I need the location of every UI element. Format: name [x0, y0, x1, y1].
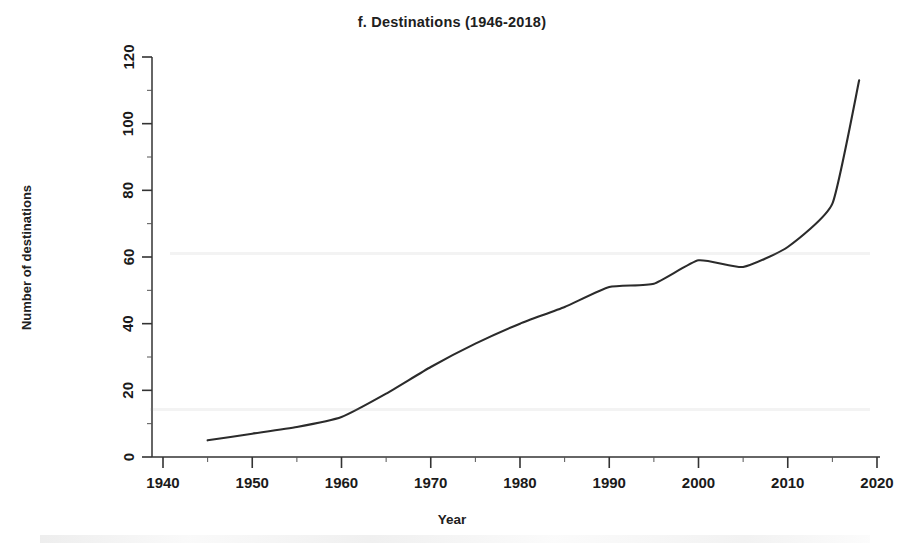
x-tick-label: 1970 [414, 474, 447, 491]
y-tick-label: 20 [120, 382, 137, 399]
y-axis-ticks [142, 57, 152, 457]
y-tick-label: 40 [120, 315, 137, 332]
x-tick-label: 2020 [860, 474, 893, 491]
y-axis-tick-labels: 020406080100120 [120, 44, 137, 461]
y-tick-label: 80 [120, 182, 137, 199]
line-chart-plot: 020406080100120 194019501960197019801990… [0, 0, 904, 543]
scan-artifact-band [150, 408, 870, 411]
y-tick-label: 100 [120, 111, 137, 136]
scan-artifact-band [170, 252, 870, 255]
scan-artifact-footer [40, 535, 870, 543]
y-tick-label: 0 [120, 453, 137, 461]
x-tick-label: 1960 [325, 474, 358, 491]
x-tick-label: 1950 [236, 474, 269, 491]
y-tick-label: 120 [120, 44, 137, 69]
x-axis-ticks [163, 457, 877, 468]
chart-figure: f. Destinations (1946-2018) Number of de… [0, 0, 904, 543]
y-tick-label: 60 [120, 249, 137, 266]
x-tick-label: 2000 [682, 474, 715, 491]
x-axis-tick-labels: 194019501960197019801990200020102020 [146, 474, 893, 491]
x-tick-label: 1980 [503, 474, 536, 491]
x-tick-label: 1940 [146, 474, 179, 491]
x-tick-label: 1990 [593, 474, 626, 491]
x-tick-label: 2010 [771, 474, 804, 491]
destinations-line-series [208, 80, 860, 440]
